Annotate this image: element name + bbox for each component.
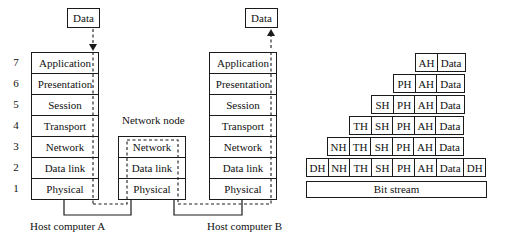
header-cell: SH [371, 158, 394, 177]
data-cell: Data [435, 137, 464, 156]
data-cell: Data [436, 158, 465, 177]
physical-link-a-to-node [64, 200, 131, 215]
encap-row-transport: TH SH PH AH Data [349, 116, 464, 135]
header-cell: TH [349, 137, 372, 156]
header-cell: TH [349, 158, 372, 177]
encap-row-application: AH Data [415, 53, 466, 72]
physical-link-node-to-b [174, 200, 242, 215]
header-cell: SH [370, 137, 393, 156]
header-cell: AH [414, 95, 437, 114]
header-cell: AH [414, 158, 437, 177]
data-cell: Data [437, 53, 466, 72]
header-cell: PH [393, 95, 416, 114]
arrow-down-icon [89, 44, 97, 51]
header-cell: AH [414, 116, 437, 135]
header-cell: AH [415, 74, 438, 93]
data-flow-path [93, 29, 271, 204]
trailer-cell: DH [463, 158, 486, 177]
arrow-up-icon [267, 29, 275, 36]
bit-stream-box: Bit stream [306, 181, 487, 198]
header-cell: PH [392, 137, 415, 156]
header-cell: NH [327, 137, 350, 156]
header-cell: TH [349, 116, 372, 135]
encap-row-network: NH TH SH PH AH Data [327, 137, 464, 156]
encap-row-data-link: DH NH TH SH PH AH Data DH [306, 158, 486, 177]
bit-stream-label: Bit stream [374, 184, 420, 195]
data-cell: Data [436, 95, 465, 114]
header-cell: AH [413, 137, 436, 156]
encap-row-session: SH PH AH Data [371, 95, 465, 114]
header-cell: SH [371, 95, 394, 114]
header-cell: PH [392, 116, 415, 135]
header-cell: SH [371, 116, 394, 135]
header-cell: NH [328, 158, 351, 177]
header-cell: AH [415, 53, 438, 72]
header-cell: PH [392, 158, 415, 177]
data-cell: Data [435, 116, 464, 135]
encap-row-presentation: PH AH Data [393, 74, 465, 93]
data-cell: Data [436, 74, 465, 93]
header-cell: DH [306, 158, 329, 177]
header-cell: PH [393, 74, 416, 93]
